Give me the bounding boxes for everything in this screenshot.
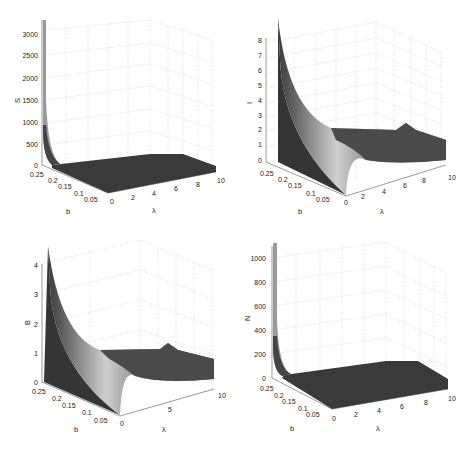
svg-text:4: 4 xyxy=(34,262,38,269)
svg-text:6: 6 xyxy=(258,67,262,74)
svg-text:10: 10 xyxy=(218,392,226,399)
svg-text:0.2: 0.2 xyxy=(278,176,288,183)
svg-text:5: 5 xyxy=(168,406,172,413)
plot-s-canvas: 3000 2500 2000 1500 1000 500 0 S 0.25 0.… xyxy=(0,0,235,225)
svg-text:200: 200 xyxy=(254,351,266,358)
svg-text:500: 500 xyxy=(26,141,38,148)
x-axis-label: λ xyxy=(162,425,166,434)
svg-text:0: 0 xyxy=(258,157,262,164)
svg-text:0.2: 0.2 xyxy=(52,395,62,402)
svg-text:7: 7 xyxy=(258,52,262,59)
svg-text:0.25: 0.25 xyxy=(32,388,46,395)
svg-text:2: 2 xyxy=(131,194,135,201)
svg-text:0.05: 0.05 xyxy=(316,196,330,203)
svg-text:600: 600 xyxy=(254,303,266,310)
plot-n: 1000 800 600 400 200 0 N 0.25 0.2 0.15 0… xyxy=(236,226,471,451)
plot-b: 4 3 2 1 0 B 0.25 0.2 0.15 0.1 0.05 b 0 5… xyxy=(0,226,235,451)
svg-text:1000: 1000 xyxy=(22,119,38,126)
svg-text:4: 4 xyxy=(382,188,386,195)
svg-text:10: 10 xyxy=(448,174,456,181)
plot-s: 3000 2500 2000 1500 1000 500 0 S 0.25 0.… xyxy=(0,0,235,225)
svg-text:6: 6 xyxy=(400,403,404,410)
svg-text:1: 1 xyxy=(34,350,38,357)
svg-text:800: 800 xyxy=(254,279,266,286)
svg-text:1500: 1500 xyxy=(22,97,38,104)
svg-text:0.25: 0.25 xyxy=(260,385,274,392)
plot-i: 8 7 6 5 4 3 2 1 0 I 0.25 0.2 0.15 0.1 0.… xyxy=(236,0,471,225)
svg-text:10: 10 xyxy=(217,177,225,184)
z-axis-label: I xyxy=(245,102,254,104)
svg-text:0.05: 0.05 xyxy=(84,196,98,203)
svg-text:0: 0 xyxy=(344,199,348,206)
svg-text:0: 0 xyxy=(34,379,38,386)
y-axis-label: b xyxy=(298,207,302,216)
svg-text:0.1: 0.1 xyxy=(306,190,316,197)
svg-text:0.25: 0.25 xyxy=(30,171,44,178)
svg-text:2: 2 xyxy=(354,411,358,418)
z-ticks: 4 3 2 1 0 xyxy=(34,262,38,386)
svg-text:0.05: 0.05 xyxy=(306,411,320,418)
svg-text:0.05: 0.05 xyxy=(94,417,108,424)
svg-text:3: 3 xyxy=(34,291,38,298)
svg-text:2: 2 xyxy=(34,321,38,328)
svg-text:8: 8 xyxy=(424,399,428,406)
x-ticks: 0 5 10 xyxy=(120,392,226,427)
svg-text:1000: 1000 xyxy=(250,255,266,262)
svg-text:8: 8 xyxy=(258,37,262,44)
svg-text:0.25: 0.25 xyxy=(260,170,274,177)
x-axis-label: λ xyxy=(152,206,156,215)
x-axis-label: λ xyxy=(376,424,380,433)
svg-text:0.15: 0.15 xyxy=(288,182,302,189)
plot-n-canvas: 1000 800 600 400 200 0 N 0.25 0.2 0.15 0… xyxy=(236,226,471,451)
surface xyxy=(52,154,216,193)
plot-b-canvas: 4 3 2 1 0 B 0.25 0.2 0.15 0.1 0.05 b 0 5… xyxy=(0,226,235,451)
plot-i-canvas: 8 7 6 5 4 3 2 1 0 I 0.25 0.2 0.15 0.1 0.… xyxy=(236,0,471,225)
svg-text:0.15: 0.15 xyxy=(282,398,296,405)
svg-text:4: 4 xyxy=(377,407,381,414)
svg-text:2000: 2000 xyxy=(22,75,38,82)
x-ticks: 0 2 4 6 8 10 xyxy=(344,174,456,206)
z-axis-label: S xyxy=(13,98,22,103)
svg-text:4: 4 xyxy=(152,190,156,197)
svg-text:0: 0 xyxy=(120,420,124,427)
svg-text:0.1: 0.1 xyxy=(74,190,84,197)
x-axis-label: λ xyxy=(380,207,384,216)
svg-text:400: 400 xyxy=(254,327,266,334)
svg-text:2: 2 xyxy=(361,193,365,200)
svg-text:0: 0 xyxy=(332,415,336,422)
z-ticks: 3000 2500 2000 1500 1000 500 0 xyxy=(22,31,38,169)
svg-text:8: 8 xyxy=(196,181,200,188)
y-axis-label: b xyxy=(74,425,78,434)
svg-text:4: 4 xyxy=(258,97,262,104)
svg-text:0: 0 xyxy=(262,375,266,382)
svg-text:6: 6 xyxy=(403,182,407,189)
z-ticks: 1000 800 600 400 200 0 xyxy=(250,255,266,382)
z-axis-label: N xyxy=(243,316,252,321)
svg-text:8: 8 xyxy=(422,177,426,184)
svg-text:5: 5 xyxy=(258,82,262,89)
z-ticks: 8 7 6 5 4 3 2 1 0 xyxy=(258,37,262,164)
svg-text:3: 3 xyxy=(258,112,262,119)
svg-text:10: 10 xyxy=(448,395,456,402)
svg-text:0.1: 0.1 xyxy=(82,409,92,416)
svg-text:0.2: 0.2 xyxy=(48,177,58,184)
svg-text:2: 2 xyxy=(258,126,262,133)
svg-text:3000: 3000 xyxy=(22,31,38,38)
svg-text:1: 1 xyxy=(258,141,262,148)
svg-text:0: 0 xyxy=(34,162,38,169)
z-axis-label: B xyxy=(23,320,32,325)
y-axis-label: b xyxy=(290,424,294,433)
svg-text:0: 0 xyxy=(110,198,114,205)
svg-text:0.15: 0.15 xyxy=(62,402,76,409)
svg-text:6: 6 xyxy=(174,185,178,192)
svg-text:0.15: 0.15 xyxy=(58,183,72,190)
y-axis-label: b xyxy=(66,207,70,216)
svg-text:2500: 2500 xyxy=(22,52,38,59)
